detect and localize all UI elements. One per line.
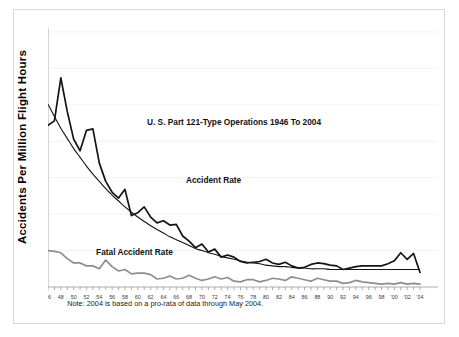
chart-title: U. S. Part 121-Type Operations 1946 To 2…: [147, 117, 321, 127]
series-label: Fatal Accident Rate: [96, 247, 173, 257]
x-tick-label: '04: [416, 294, 423, 300]
x-tick-label: 82: [276, 294, 282, 300]
x-tick-label: '02: [404, 294, 411, 300]
chart-note: Note: 2004 is based on a pro-rata of dat…: [67, 299, 263, 308]
x-tick-label: 86: [302, 294, 308, 300]
series-line-accident-rate-trend: [48, 104, 420, 269]
series-label: Accident Rate: [186, 175, 242, 185]
x-tick-label: 46: [48, 294, 51, 300]
x-tick-label: 80: [263, 294, 269, 300]
x-tick-label: 92: [340, 294, 346, 300]
accident-rate-line-chart: 0510152025303546485052545658606264666870…: [48, 18, 446, 318]
y-axis-title: Accidents Per Million Flight Hours: [16, 7, 28, 287]
x-tick-label: 88: [314, 294, 320, 300]
x-tick-label: 84: [289, 294, 295, 300]
plot-area: 0510152025303546485052545658606264666870…: [48, 18, 446, 318]
chart-figure: Accidents Per Million Flight Hours 05101…: [0, 0, 459, 337]
x-tick-label: 94: [353, 294, 359, 300]
x-tick-label: 90: [327, 294, 333, 300]
x-tick-label: 96: [366, 294, 372, 300]
x-tick-label: '00: [391, 294, 398, 300]
x-tick-label: 48: [58, 294, 64, 300]
x-tick-label: 98: [379, 294, 385, 300]
